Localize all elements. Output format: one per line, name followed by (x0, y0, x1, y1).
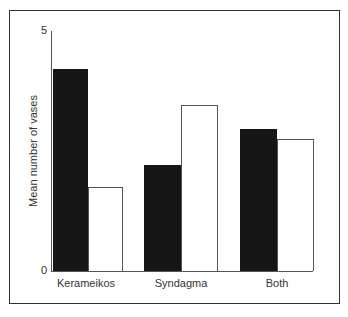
x-axis (51, 271, 313, 272)
x-label-both: Both (266, 277, 289, 289)
y-tick-max: 5 (41, 24, 47, 36)
y-tick-min: 0 (41, 264, 47, 276)
bar-both-black (240, 129, 277, 271)
bar-syndagma-white (181, 105, 218, 271)
y-axis-label: Mean number of vases (27, 95, 39, 207)
x-label-kerameikos: Kerameikos (57, 277, 115, 289)
bar-kerameikos-white (88, 187, 123, 271)
x-label-syndagma: Syndagma (155, 277, 208, 289)
bar-syndagma-black (144, 165, 181, 271)
bar-both-white (277, 139, 314, 271)
bar-kerameikos-black (53, 69, 88, 271)
y-axis (51, 31, 52, 271)
